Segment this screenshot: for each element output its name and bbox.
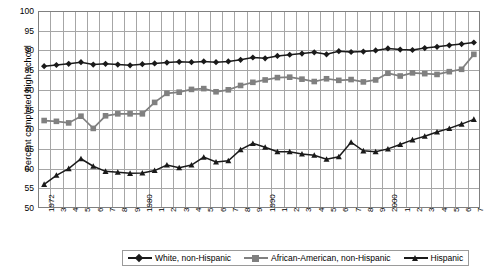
- x-tick-label: 1: [158, 208, 166, 212]
- data-point-marker: [189, 87, 195, 93]
- data-point-marker: [225, 58, 231, 64]
- legend-item-1[interactable]: African-American, non-Hispanic: [244, 253, 391, 263]
- data-point-marker: [164, 60, 170, 66]
- data-point-marker: [53, 172, 59, 178]
- x-tick-label: 4: [441, 208, 449, 212]
- data-point-marker: [471, 116, 477, 122]
- x-tick-label: 9: [134, 208, 142, 212]
- data-point-marker: [176, 89, 182, 95]
- x-tick-label: 6: [220, 208, 228, 212]
- data-point-marker: [385, 45, 391, 51]
- data-point-marker: [238, 147, 244, 153]
- x-tick-label: 2: [293, 208, 301, 212]
- data-point-marker: [250, 54, 256, 60]
- data-point-marker: [422, 71, 428, 77]
- x-tick-label: 1: [281, 208, 289, 212]
- data-point-marker: [201, 86, 207, 92]
- series-hispanic: [41, 116, 477, 187]
- data-point-marker: [238, 83, 244, 89]
- data-point-marker: [287, 74, 293, 80]
- data-point-marker: [458, 41, 464, 47]
- x-tick-label: 4: [318, 208, 326, 212]
- data-point-marker: [78, 156, 84, 162]
- data-point-marker: [459, 67, 465, 73]
- legend-marker-diamond-icon: [128, 253, 152, 263]
- data-point-marker: [90, 61, 96, 67]
- x-tick-label: 8: [367, 208, 375, 212]
- x-tick-label: 5: [207, 208, 215, 212]
- x-tick-label: 3: [305, 208, 313, 212]
- data-point-marker: [164, 91, 170, 97]
- data-point-marker: [262, 77, 268, 83]
- x-tick-label: 3: [183, 208, 191, 212]
- data-point-marker: [152, 60, 158, 66]
- data-point-marker: [188, 59, 194, 65]
- x-tick-label: 1972: [48, 194, 56, 212]
- data-point-marker: [324, 76, 330, 82]
- series-line: [44, 43, 474, 67]
- data-point-marker: [127, 62, 133, 68]
- x-tick-label: 3: [428, 208, 436, 212]
- legend-item-0[interactable]: White, non-Hispanic: [128, 253, 231, 263]
- data-point-marker: [176, 59, 182, 65]
- chart-legend: White, non-HispanicAfrican-American, non…: [122, 250, 469, 266]
- data-point-marker: [250, 80, 256, 86]
- data-point-marker: [274, 53, 280, 59]
- data-point-marker: [311, 49, 317, 55]
- data-point-marker: [237, 57, 243, 63]
- data-point-marker: [102, 61, 108, 67]
- legend-label: Hispanic: [431, 254, 464, 263]
- data-point-marker: [213, 59, 219, 65]
- legend-item-2[interactable]: Hispanic: [404, 253, 464, 263]
- legend-label: White, non-Hispanic: [155, 254, 231, 263]
- x-tick-label: 4: [195, 208, 203, 212]
- data-point-marker: [373, 77, 379, 83]
- series-layer: [0, 0, 493, 272]
- x-tick-label: 8: [121, 208, 129, 212]
- x-tick-label: 5: [84, 208, 92, 212]
- data-point-marker: [434, 72, 440, 78]
- data-point-marker: [103, 113, 109, 119]
- data-point-marker: [397, 73, 403, 79]
- data-point-marker: [348, 139, 354, 145]
- data-point-marker: [78, 113, 84, 119]
- data-point-marker: [275, 75, 281, 81]
- data-point-marker: [471, 52, 477, 58]
- x-tick-label: 9: [256, 208, 264, 212]
- data-point-marker: [201, 154, 207, 160]
- x-tick-label: 3: [60, 208, 68, 212]
- data-point-marker: [41, 118, 47, 124]
- x-tick-label: 7: [109, 208, 117, 212]
- data-point-marker: [66, 61, 72, 67]
- legend-marker-square-icon: [244, 253, 268, 263]
- data-point-marker: [447, 69, 453, 75]
- data-point-marker: [54, 119, 60, 125]
- data-point-marker: [78, 59, 84, 65]
- data-point-marker: [323, 51, 329, 57]
- x-tick-label: 9: [379, 208, 387, 212]
- data-point-marker: [115, 111, 121, 117]
- x-tick-label: 6: [465, 208, 473, 212]
- data-point-marker: [422, 45, 428, 51]
- data-point-marker: [90, 126, 96, 132]
- x-tick-label: 2: [170, 208, 178, 212]
- data-point-marker: [299, 76, 305, 82]
- data-point-marker: [299, 50, 305, 56]
- x-tick-label: 8: [244, 208, 252, 212]
- x-tick-label: 1990: [269, 194, 277, 212]
- data-point-marker: [410, 70, 416, 76]
- x-tick-label: 5: [453, 208, 461, 212]
- data-point-marker: [385, 70, 391, 76]
- data-point-marker: [262, 55, 268, 61]
- data-point-marker: [360, 48, 366, 54]
- data-point-marker: [446, 42, 452, 48]
- data-point-marker: [250, 140, 256, 146]
- data-point-marker: [397, 47, 403, 53]
- series-line: [44, 54, 474, 128]
- data-point-marker: [115, 61, 121, 67]
- data-point-marker: [139, 61, 145, 67]
- data-point-marker: [226, 87, 232, 93]
- series-white-non-hispanic: [41, 39, 477, 69]
- legend-label: African-American, non-Hispanic: [271, 254, 391, 263]
- data-point-marker: [348, 49, 354, 55]
